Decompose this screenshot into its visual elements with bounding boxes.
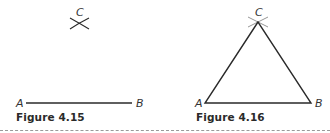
point-label-a: A <box>15 97 24 110</box>
point-label-b: B <box>136 97 144 110</box>
figure-caption-4-16: Figure 4.16 <box>196 111 265 123</box>
triangle-abc <box>205 22 311 103</box>
figure-4-15: C A B <box>15 6 144 110</box>
point-label-c: C <box>76 6 84 19</box>
dashed-divider <box>0 130 330 131</box>
figure-caption-4-15: Figure 4.15 <box>16 111 85 123</box>
point-label-b: B <box>315 97 323 110</box>
point-label-a: A <box>194 97 203 110</box>
arc-intersection-mark <box>70 18 89 29</box>
point-label-c: C <box>255 6 263 19</box>
figure-4-16: C A B <box>194 6 323 110</box>
